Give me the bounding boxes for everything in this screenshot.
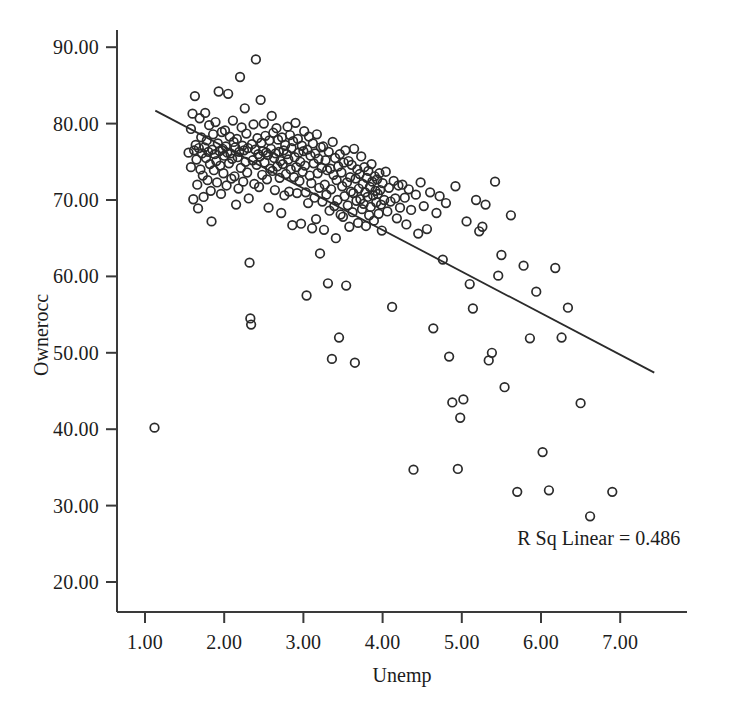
y-axis-tick-label: 30.00: [0, 496, 99, 516]
data-point: [308, 224, 317, 233]
data-point: [214, 87, 223, 96]
data-point: [507, 211, 516, 220]
data-point: [328, 355, 337, 364]
data-point: [264, 203, 273, 212]
data-point: [365, 211, 374, 220]
data-point: [191, 92, 200, 101]
data-point: [209, 130, 218, 139]
data-point: [481, 200, 490, 209]
data-point: [271, 186, 280, 195]
data-point: [327, 185, 336, 194]
data-point: [336, 210, 345, 219]
data-point: [538, 448, 547, 457]
data-point: [277, 209, 286, 218]
data-point: [586, 512, 595, 521]
data-point: [374, 209, 383, 218]
data-point: [189, 195, 198, 204]
y-axis-tick-label: 90.00: [0, 37, 99, 57]
y-axis-ticks: [106, 47, 117, 582]
data-point: [313, 130, 322, 139]
data-point: [242, 129, 251, 138]
data-point: [249, 120, 258, 129]
y-axis-tick-label: 60.00: [0, 266, 99, 286]
data-point: [224, 90, 233, 99]
data-point: [396, 203, 405, 212]
data-point: [297, 219, 306, 228]
data-point: [239, 177, 248, 186]
data-point: [252, 55, 261, 64]
data-point: [244, 194, 253, 203]
data-point: [497, 251, 506, 260]
data-point: [576, 399, 585, 408]
r-squared-annotation: R Sq Linear = 0.486: [517, 527, 680, 550]
data-point: [213, 178, 222, 187]
y-axis-tick-label: 20.00: [0, 572, 99, 592]
data-point: [407, 206, 416, 215]
data-point: [402, 220, 411, 229]
data-point: [345, 222, 354, 231]
data-point: [442, 199, 451, 208]
data-point: [432, 209, 441, 218]
data-point: [462, 217, 471, 226]
y-axis-tick-label: 40.00: [0, 419, 99, 439]
data-point: [288, 221, 297, 230]
x-axis-tick-label: 3.00: [285, 632, 321, 652]
data-point: [267, 112, 276, 121]
data-point: [195, 114, 204, 123]
data-point: [383, 207, 392, 216]
data-point: [207, 217, 216, 226]
data-point: [472, 196, 481, 205]
data-point: [342, 281, 351, 290]
data-point: [245, 258, 254, 267]
data-point: [187, 163, 196, 172]
data-point: [339, 213, 348, 222]
data-point: [409, 465, 418, 474]
regression-line: [155, 111, 654, 373]
data-point: [193, 180, 202, 189]
data-point: [320, 226, 329, 235]
data-point: [469, 304, 478, 313]
fit-line: [155, 111, 654, 373]
data-point: [419, 202, 428, 211]
data-point: [199, 193, 208, 202]
data-point: [260, 119, 269, 128]
data-point: [358, 205, 367, 214]
data-point: [400, 193, 409, 202]
data-point: [150, 423, 159, 432]
data-point: [494, 271, 503, 280]
data-point: [316, 249, 325, 258]
data-point: [247, 320, 256, 329]
x-axis-tick-label: 2.00: [206, 632, 242, 652]
data-point: [312, 215, 321, 224]
data-point: [300, 127, 309, 136]
data-point: [357, 152, 366, 161]
data-point: [236, 73, 245, 82]
plot-canvas: [0, 0, 748, 701]
data-point: [256, 96, 265, 105]
data-point: [322, 190, 331, 199]
data-point: [217, 190, 226, 199]
data-point: [414, 229, 423, 238]
data-point: [332, 234, 341, 243]
y-axis-title: Ownerocc: [30, 294, 53, 376]
data-point: [201, 109, 210, 118]
data-point: [513, 488, 522, 497]
data-points: [150, 55, 616, 520]
y-axis-tick-label: 70.00: [0, 190, 99, 210]
data-point: [302, 291, 311, 300]
data-point: [423, 225, 432, 234]
scatterplot-figure: 20.0030.0040.0050.0060.0070.0080.0090.00…: [0, 0, 748, 701]
data-point: [451, 182, 460, 191]
x-axis-tick-label: 1.00: [127, 632, 163, 652]
data-point: [206, 187, 215, 196]
data-point: [465, 280, 474, 289]
data-point: [608, 488, 617, 497]
data-point: [232, 200, 241, 209]
data-point: [219, 169, 228, 178]
x-axis-title: Unemp: [373, 664, 432, 687]
data-point: [194, 204, 203, 213]
data-point: [488, 349, 497, 358]
data-point: [229, 116, 238, 125]
data-point: [491, 177, 500, 186]
data-point: [350, 145, 359, 154]
